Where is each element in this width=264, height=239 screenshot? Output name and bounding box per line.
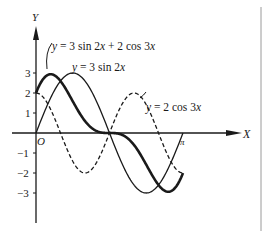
y-tick-2: 2 (25, 87, 31, 99)
y-axis-label: Y (32, 11, 40, 23)
y-tick-m2: −2 (17, 167, 29, 179)
y-axis: Y (32, 11, 40, 223)
annotation-cos: y = 2 cos 3x (145, 101, 202, 114)
y-tick-1: 1 (25, 107, 31, 119)
y-axis-arrow-icon (33, 26, 39, 40)
annotation-sum: y = 3 sin 2x + 2 cos 3x (51, 40, 156, 53)
x-axis-label: X (242, 127, 251, 141)
y-tick-m3: −3 (17, 187, 29, 199)
origin-label: O (37, 135, 45, 147)
y-tick-m1: −1 (17, 147, 29, 159)
x-axis-arrow-icon (226, 130, 242, 136)
annotation-sin: y = 3 sin 2x (71, 61, 126, 74)
y-tick-3: 3 (25, 67, 31, 79)
x-axis: X O π (12, 127, 251, 147)
leader-cos (140, 92, 146, 98)
trig-sum-plot: Y X O π 3 2 1 −1 −2 −3 y = 3 sin 2x + 2 … (0, 0, 264, 239)
